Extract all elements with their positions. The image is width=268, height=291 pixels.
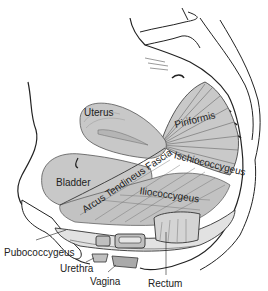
label-pubococcygeus: Pubococcygeus — [4, 248, 75, 258]
label-urethra: Urethra — [60, 264, 93, 274]
pelvic-floor-diagram: Uterus Bladder Piriformis Ischiococcygeu… — [0, 0, 268, 291]
label-bladder: Bladder — [56, 178, 90, 188]
label-vagina: Vagina — [90, 277, 120, 287]
label-uterus: Uterus — [84, 108, 113, 118]
label-rectum: Rectum — [148, 279, 182, 289]
